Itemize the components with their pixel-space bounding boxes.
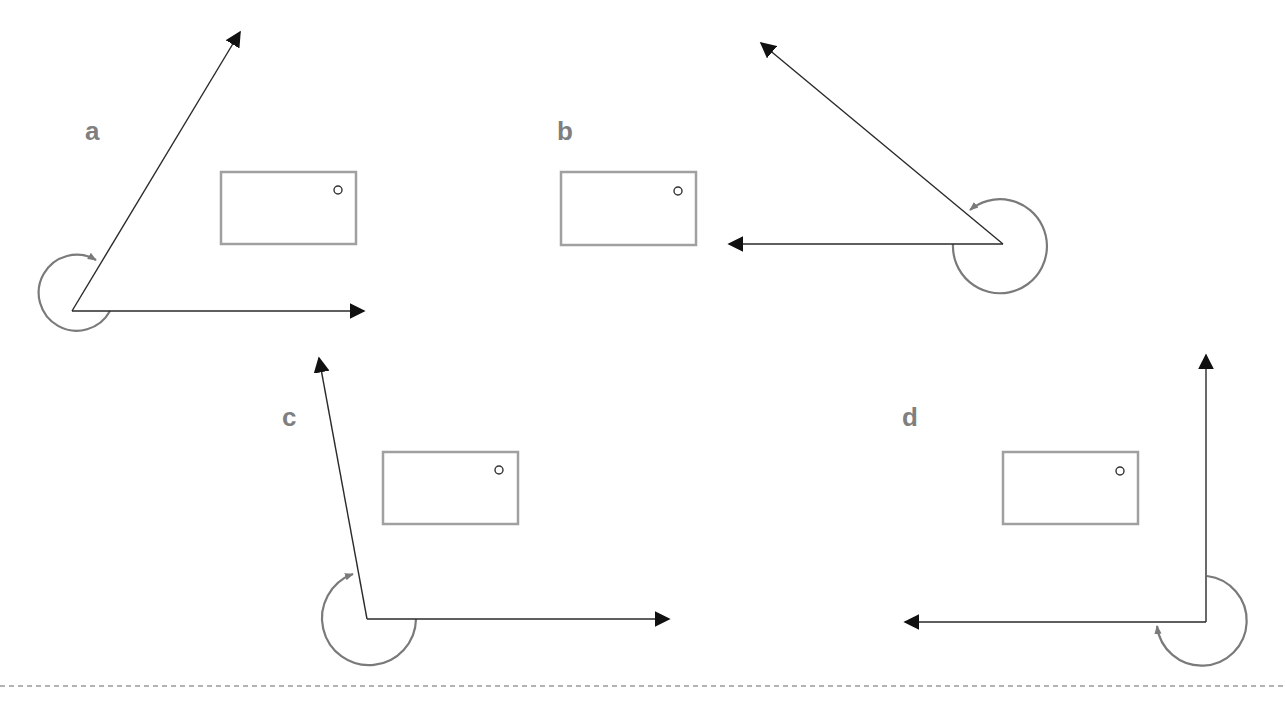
- panel-label-d: d: [902, 402, 918, 432]
- y-axis-arrow: [761, 43, 1003, 244]
- board-rectangle: [561, 172, 696, 245]
- panel-b: b: [557, 43, 1047, 293]
- board-rectangle: [221, 172, 356, 244]
- board-rectangle: [383, 452, 518, 524]
- board-marker-dot: [334, 186, 342, 194]
- y-axis-arrow: [72, 32, 240, 311]
- board-a: [221, 172, 356, 244]
- board-d: [1003, 452, 1138, 524]
- board-rectangle: [1003, 452, 1138, 524]
- board-c: [383, 452, 518, 524]
- board-marker-dot: [1116, 467, 1124, 475]
- board-marker-dot: [674, 187, 682, 195]
- rotation-arc-icon: [1157, 576, 1247, 666]
- panel-label-a: a: [85, 116, 100, 146]
- panel-c: c: [282, 358, 669, 665]
- board-marker-dot: [495, 466, 503, 474]
- panel-label-c: c: [282, 402, 296, 432]
- panel-a: a: [39, 32, 364, 331]
- board-b: [561, 172, 696, 245]
- panel-label-b: b: [557, 116, 573, 146]
- panel-d: d: [902, 355, 1247, 666]
- orientation-diagram: a b c d: [0, 0, 1285, 705]
